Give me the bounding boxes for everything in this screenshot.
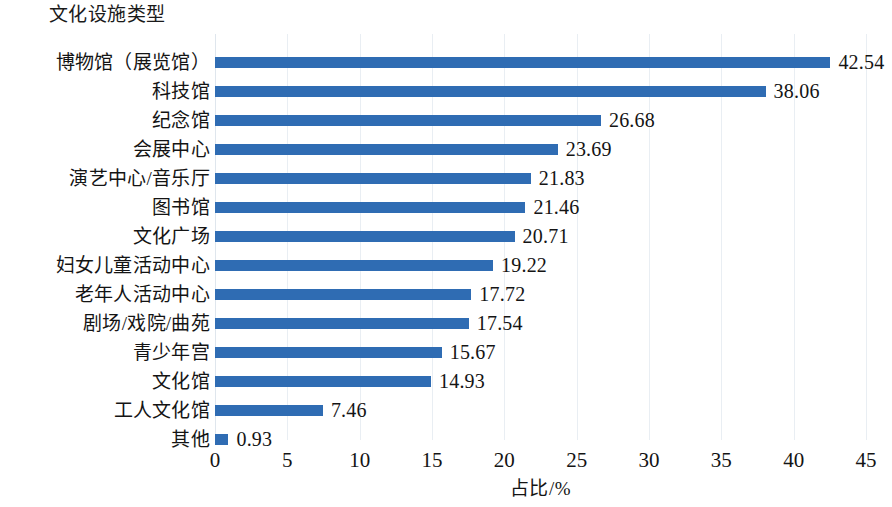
category-label: 老年人活动中心: [0, 280, 210, 309]
bar[interactable]: [215, 144, 558, 155]
bar-row: 38.06: [215, 77, 866, 106]
category-label: 演艺中心/音乐厅: [0, 164, 210, 193]
bar-value-label: 42.54: [838, 50, 884, 75]
plot-area: 42.5438.0626.6823.6921.8321.4620.7119.22…: [215, 34, 866, 440]
x-axis-tick-list: 051015202530354045: [215, 446, 866, 476]
bar-value-label: 17.54: [477, 311, 523, 336]
bar-row: 21.46: [215, 193, 866, 222]
bar[interactable]: [215, 115, 601, 126]
bar-row: 42.54: [215, 48, 866, 77]
bar-row: 7.46: [215, 396, 866, 425]
bar[interactable]: [215, 86, 766, 97]
bar-value-label: 38.06: [774, 79, 820, 104]
x-axis-tick-label: 15: [422, 446, 443, 474]
bar-chart: 文化设施类型 博物馆（展览馆）科技馆纪念馆会展中心演艺中心/音乐厅图书馆文化广场…: [0, 0, 892, 507]
bar-row: 23.69: [215, 135, 866, 164]
bar-row: 17.72: [215, 280, 866, 309]
bar[interactable]: [215, 289, 471, 300]
x-axis-tick-label: 5: [282, 446, 293, 474]
bar-row: 26.68: [215, 106, 866, 135]
category-label: 青少年宫: [0, 338, 210, 367]
bar[interactable]: [215, 260, 493, 271]
bar-value-label: 15.67: [450, 340, 496, 365]
x-axis-tick-label: 40: [783, 446, 804, 474]
category-label: 文化馆: [0, 367, 210, 396]
bar-value-label: 14.93: [439, 369, 485, 394]
x-axis-tick-label: 45: [856, 446, 877, 474]
category-label-list: 博物馆（展览馆）科技馆纪念馆会展中心演艺中心/音乐厅图书馆文化广场妇女儿童活动中…: [0, 34, 210, 440]
bar[interactable]: [215, 347, 442, 358]
bar-row: 17.54: [215, 309, 866, 338]
bar-value-label: 23.69: [566, 137, 612, 162]
bar[interactable]: [215, 405, 323, 416]
bar[interactable]: [215, 57, 830, 68]
bar-value-label: 21.46: [533, 195, 579, 220]
bar-value-label: 21.83: [539, 166, 585, 191]
bar-row: 19.22: [215, 251, 866, 280]
bar-value-label: 26.68: [609, 108, 655, 133]
bar-row: 15.67: [215, 338, 866, 367]
category-label: 妇女儿童活动中心: [0, 251, 210, 280]
x-axis-tick-label: 35: [711, 446, 732, 474]
category-label: 科技馆: [0, 77, 210, 106]
category-label: 纪念馆: [0, 106, 210, 135]
bar-row: 20.71: [215, 222, 866, 251]
bar-row: 21.83: [215, 164, 866, 193]
x-axis-tick-label: 25: [566, 446, 587, 474]
bar[interactable]: [215, 202, 525, 213]
bar-value-label: 20.71: [523, 224, 569, 249]
bar-value-label: 19.22: [501, 253, 547, 278]
bar[interactable]: [215, 173, 531, 184]
x-axis-tick-label: 0: [210, 446, 221, 474]
bar-value-label: 17.72: [479, 282, 525, 307]
bar-row: 14.93: [215, 367, 866, 396]
bar-value-label: 7.46: [331, 398, 367, 423]
category-label: 博物馆（展览馆）: [0, 48, 210, 77]
bar[interactable]: [215, 376, 431, 387]
category-label: 会展中心: [0, 135, 210, 164]
category-label: 其他: [0, 425, 210, 454]
category-label: 图书馆: [0, 193, 210, 222]
category-label: 工人文化馆: [0, 396, 210, 425]
x-axis-tick-label: 10: [349, 446, 370, 474]
category-label: 剧场/戏院/曲苑: [0, 309, 210, 338]
x-axis-title: 占比/%: [215, 476, 866, 502]
bar[interactable]: [215, 318, 469, 329]
gridline: [866, 34, 867, 440]
x-axis-tick-label: 30: [639, 446, 660, 474]
category-label: 文化广场: [0, 222, 210, 251]
bar[interactable]: [215, 434, 228, 445]
category-axis-title: 文化设施类型: [0, 2, 214, 28]
x-axis-tick-label: 20: [494, 446, 515, 474]
bar[interactable]: [215, 231, 515, 242]
bar-row-list: 42.5438.0626.6823.6921.8321.4620.7119.22…: [215, 34, 866, 440]
